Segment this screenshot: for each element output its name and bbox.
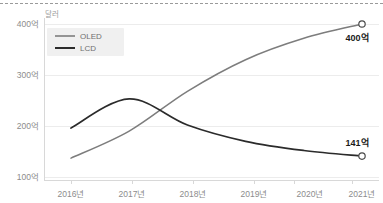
x-tick-label-2016: 2016년 [58, 189, 85, 199]
x-tick-label-2017: 2017년 [119, 189, 146, 199]
endpoint-marker-oled [359, 21, 365, 27]
endpoint-label-oled: 400억 [345, 32, 368, 43]
y-tick-label-100: 100억 [17, 172, 39, 182]
line-chart: 달러 400억 300억 200억 100억 2016년 2017년 2018년… [0, 0, 383, 203]
endpoint-label-lcd: 141억 [345, 137, 368, 148]
legend-label-oled: OLED [80, 32, 102, 41]
series-line-lcd [71, 99, 362, 156]
y-axis-unit-label: 달러 [45, 10, 59, 19]
y-tick-label-300: 300억 [17, 70, 39, 80]
chart-plot-svg: 달러 400억 300억 200억 100억 2016년 2017년 2018년… [0, 0, 383, 203]
y-tick-label-400: 400억 [17, 19, 39, 29]
legend-label-lcd: LCD [80, 44, 96, 53]
x-tick-marks [71, 180, 352, 184]
x-tick-label-2021: 2021년 [349, 189, 376, 199]
x-tick-label-2019: 2019년 [241, 189, 268, 199]
y-tick-label-200: 200억 [17, 121, 39, 131]
endpoint-marker-lcd [359, 153, 365, 159]
legend: OLED LCD [47, 28, 124, 56]
x-tick-label-2020: 2020년 [297, 189, 324, 199]
x-tick-label-2018: 2018년 [180, 189, 207, 199]
